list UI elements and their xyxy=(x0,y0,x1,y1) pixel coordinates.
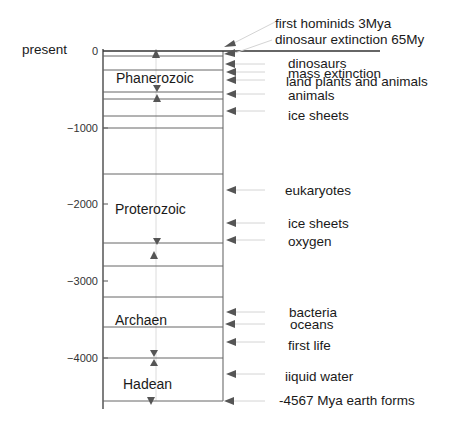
event-label: oxygen xyxy=(288,235,332,249)
arrow-left-icon xyxy=(226,186,236,194)
arrow-left-icon xyxy=(224,40,236,47)
event-leaders xyxy=(232,22,275,401)
era-label-hadean: Hadean xyxy=(123,377,172,391)
era-span-markers xyxy=(147,49,161,405)
event-label: land plants and animals xyxy=(286,75,428,89)
tick-label-1000: −1000 xyxy=(50,123,98,134)
arrow-left-icon xyxy=(226,338,236,346)
tick-label-2000: −2000 xyxy=(50,199,98,210)
triangle-up-icon xyxy=(150,359,158,366)
event-label: eukaryotes xyxy=(285,184,351,198)
event-label: first hominids 3Mya xyxy=(275,17,391,31)
triangle-up-icon xyxy=(153,94,161,102)
event-label: iiquid water xyxy=(285,370,353,384)
event-label: animals xyxy=(288,89,335,103)
triangle-up-icon xyxy=(150,251,158,259)
arrow-left-icon xyxy=(226,236,236,244)
triangle-down-icon xyxy=(153,85,161,92)
arrow-left-icon xyxy=(224,397,234,405)
event-label: ice sheets xyxy=(288,109,349,123)
event-label: -4567 Mya earth forms xyxy=(279,394,415,408)
tick-label-4000: −4000 xyxy=(50,353,98,364)
event-label: dinosaur extinction 65My xyxy=(275,33,424,47)
event-arrows xyxy=(224,40,236,405)
event-label: ice sheets xyxy=(288,217,349,231)
arrow-left-icon xyxy=(226,68,236,76)
arrow-left-icon xyxy=(226,370,236,378)
arrow-left-icon xyxy=(225,60,235,68)
arrow-left-icon xyxy=(226,76,236,84)
boundary-lines xyxy=(103,56,223,401)
triangle-down-icon xyxy=(153,238,161,245)
arrow-left-icon xyxy=(226,107,236,115)
arrow-left-icon xyxy=(226,90,236,98)
arrow-left-icon xyxy=(226,219,236,227)
triangle-down-icon xyxy=(150,350,158,357)
tick-label-3000: −3000 xyxy=(50,276,98,287)
arrow-left-icon xyxy=(226,308,236,316)
era-label-phanerozoic: Phanerozoic xyxy=(116,71,194,85)
event-label: first life xyxy=(288,339,331,353)
tick-label-0: 0 xyxy=(50,46,98,57)
arrow-left-icon xyxy=(225,320,235,328)
timeline-diagram xyxy=(0,0,469,431)
event-label: oceans xyxy=(290,318,334,332)
era-label-archaen: Archaen xyxy=(115,313,167,327)
era-label-proterozoic: Proterozoic xyxy=(115,202,186,216)
